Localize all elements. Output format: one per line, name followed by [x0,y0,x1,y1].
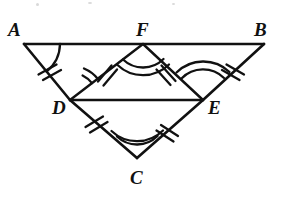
angle-arcs [47,44,230,144]
vertex-label-F: F [136,20,149,39]
angle-DFE-arcs [118,59,170,75]
vertex-label-B: B [254,20,267,39]
segment-FE [143,44,203,100]
vertex-label-C: C [130,168,143,187]
angle-FEB-arc-1 [182,69,225,78]
segment-CE [137,100,203,158]
angle-ADF-arc-1 [83,76,92,84]
vertex-label-E: E [208,98,221,117]
segment-DC [70,100,137,158]
geometry-figure: A F B D E C [0,0,284,199]
vertex-label-A: A [8,20,21,39]
vertex-label-D: D [52,98,66,117]
segment-EB [203,44,264,100]
angle-DFE-arc-1 [123,59,164,67]
